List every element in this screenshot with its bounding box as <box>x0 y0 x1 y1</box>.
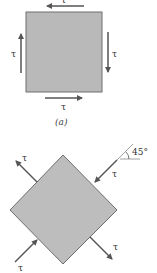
angle-ray-line <box>117 144 133 160</box>
top-left-tension-arrow-icon <box>16 161 37 182</box>
bottom-right-tension-arrow-icon <box>90 237 112 259</box>
label-tau-top-left: τ <box>22 153 27 163</box>
label-tau-right: τ <box>112 49 117 59</box>
bottom-left-compression-arrow-icon <box>15 240 37 262</box>
figure-a: τ τ τ τ (a) <box>11 0 117 127</box>
label-tau-bottom-right: τ <box>113 242 118 252</box>
shear-element-square <box>26 12 102 92</box>
stress-element-diagram: τ τ τ τ (a) 45° τ τ τ τ <box>0 0 157 273</box>
figure-b: 45° τ τ τ τ <box>10 144 148 273</box>
caption-a: (a) <box>55 117 68 127</box>
label-tau-bottom: τ <box>61 102 66 112</box>
label-angle-45: 45° <box>132 147 148 157</box>
label-tau-bottom-left: τ <box>18 263 23 273</box>
label-tau-top: τ <box>61 0 66 5</box>
label-tau-top-right: τ <box>112 169 117 179</box>
angle-arc-icon <box>126 152 129 159</box>
label-tau-left: τ <box>11 49 16 59</box>
